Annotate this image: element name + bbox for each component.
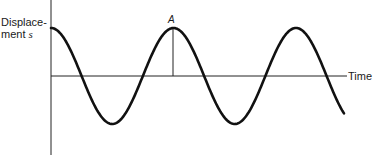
point-a-label: A <box>168 14 175 26</box>
y-axis-label-line1: Displace- <box>1 16 47 28</box>
displacement-time-graph <box>0 0 374 161</box>
x-axis-label: Time <box>348 70 372 82</box>
y-axis-label-line2: ment <box>1 28 25 40</box>
y-axis-symbol: s <box>29 28 33 40</box>
y-axis-label: Displace- ment s <box>1 16 47 40</box>
